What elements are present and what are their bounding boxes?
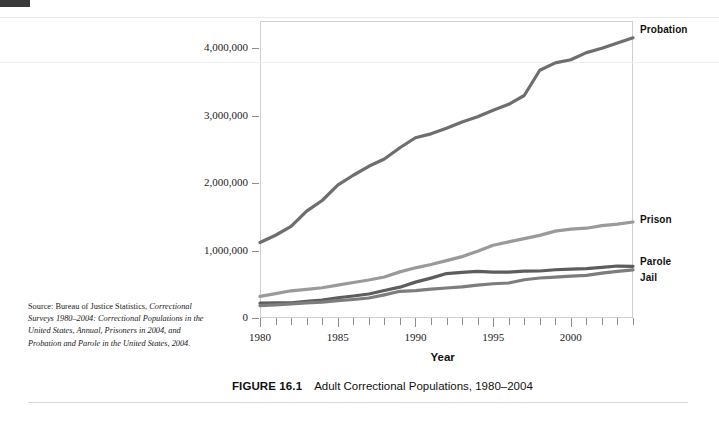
series-label-parole: Parole <box>640 256 671 267</box>
y-tick-mark <box>252 251 259 252</box>
y-tick-mark <box>252 116 259 117</box>
series-label-jail: Jail <box>640 272 657 283</box>
series-label-prison: Prison <box>640 214 672 225</box>
x-tick-mark <box>431 318 432 325</box>
y-tick-mark <box>252 183 259 184</box>
y-tick-mark <box>252 318 259 319</box>
series-line-probation <box>260 38 633 243</box>
series-line-prison <box>260 222 633 296</box>
x-tick-mark <box>586 318 587 325</box>
x-tick-mark <box>415 318 416 327</box>
y-tick-label: 3,000,000 <box>160 109 248 121</box>
x-tick-mark <box>509 318 510 325</box>
x-tick-label: 1990 <box>385 331 445 343</box>
x-tick-mark <box>571 318 572 327</box>
x-tick-label: 1980 <box>230 331 290 343</box>
x-axis-title: Year <box>431 351 455 363</box>
figure-caption-text: Adult Correctional Populations, 1980–200… <box>314 380 533 392</box>
x-tick-mark <box>478 318 479 325</box>
x-tick-mark <box>276 318 277 325</box>
x-tick-label: 1985 <box>308 331 368 343</box>
figure-number: FIGURE 16.1 <box>232 380 302 392</box>
y-tick-label: 0 <box>160 311 248 323</box>
x-tick-mark <box>493 318 494 327</box>
chart-figure: 01,000,0002,000,0003,000,0004,000,000198… <box>0 0 719 423</box>
x-tick-mark <box>400 318 401 325</box>
x-tick-mark <box>307 318 308 325</box>
x-tick-mark <box>602 318 603 325</box>
x-tick-mark <box>384 318 385 325</box>
x-tick-mark <box>617 318 618 325</box>
x-tick-mark <box>322 318 323 325</box>
figure-caption: FIGURE 16.1Adult Correctional Population… <box>232 380 533 392</box>
x-tick-mark <box>369 318 370 325</box>
x-tick-mark <box>555 318 556 325</box>
plot-lines <box>260 21 633 318</box>
y-tick-label: 4,000,000 <box>160 41 248 53</box>
x-tick-label: 1995 <box>463 331 523 343</box>
y-tick-label: 1,000,000 <box>160 244 248 256</box>
x-tick-label: 2000 <box>541 331 601 343</box>
x-tick-mark <box>291 318 292 325</box>
x-tick-mark <box>447 318 448 325</box>
y-tick-mark <box>252 48 259 49</box>
x-tick-mark <box>353 318 354 325</box>
series-line-parole <box>260 266 633 303</box>
figure-page: Source: Bureau of Justice Statistics, Co… <box>0 0 719 423</box>
x-tick-mark <box>524 318 525 325</box>
x-tick-mark <box>540 318 541 325</box>
y-tick-label: 2,000,000 <box>160 176 248 188</box>
series-label-probation: Probation <box>640 24 688 35</box>
x-tick-mark <box>633 318 634 325</box>
x-tick-mark <box>462 318 463 325</box>
x-tick-mark <box>260 318 261 327</box>
x-tick-mark <box>338 318 339 327</box>
